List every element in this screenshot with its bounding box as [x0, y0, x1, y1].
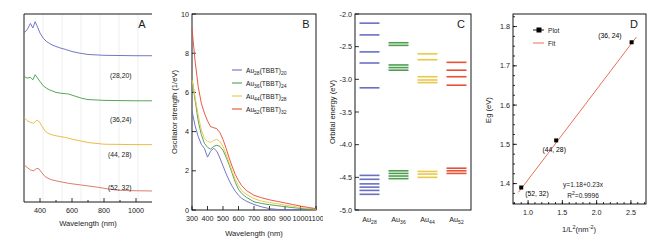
panel-a-gridlines — [43, 14, 138, 202]
panel-d-frame — [513, 14, 646, 204]
x-tick-label: 700 — [248, 214, 260, 223]
y-tick-label: -2.5 — [340, 42, 352, 51]
panel-c-category-label: Au52 — [449, 215, 464, 225]
panel-d-data-point — [519, 186, 523, 190]
y-tick-label: -2.0 — [340, 10, 352, 19]
panel-d-points: (36, 24)(44, 28)(52, 32) — [519, 32, 633, 197]
panel-d-data-point — [554, 138, 558, 142]
panel-d-point-label: (52, 32) — [525, 190, 548, 198]
panel-c-svg: -2.0-2.5-3.0-3.5-4.0-4.5-5.0 Orbital ene… — [323, 0, 478, 246]
x-tick-label: 1.0 — [523, 208, 533, 217]
panel-d-data-point — [630, 40, 634, 44]
panel-b-yticks: 0246810 — [181, 10, 196, 215]
y-tick-label: 2 — [185, 166, 189, 175]
x-tick-label: 600 — [66, 206, 78, 215]
panel-a-svg: 400 600 800 1000 Wavelength (nm) (28,20)… — [0, 0, 168, 246]
panel-d-ylabel: Eg (eV) — [484, 97, 493, 123]
panel-c-ylabel: Orbital energy (eV) — [328, 79, 337, 144]
panel-c-yticks: -2.0-2.5-3.0-3.5-4.0-4.5-5.0 — [340, 10, 359, 215]
panel-d-xticks: 1.01.52.02.5 — [514, 200, 644, 217]
panel-b-letter: B — [302, 18, 309, 30]
four-panel-figure: 400 600 800 1000 Wavelength (nm) (28,20)… — [0, 0, 659, 246]
x-tick-label: 900 — [279, 214, 291, 223]
panel-c-category-label: Au36 — [391, 215, 406, 225]
y-tick-label: 1.5 — [500, 140, 510, 149]
panel-a-curve-label-3: (44, 28) — [108, 151, 131, 159]
x-tick-label: 1000 — [128, 206, 144, 215]
legend-label-fit: Fit — [548, 40, 555, 47]
legend-label: Au28(TBBT)20 — [246, 67, 287, 76]
panel-a-curve-label-1: (28,20) — [110, 72, 132, 80]
x-tick-label: 1100 — [308, 214, 323, 223]
panel-b: 0246810 30040050060070080090010001100 Wa… — [168, 0, 323, 246]
y-tick-label: -3.0 — [340, 75, 352, 84]
panel-b-xlabel: Wavelength (nm) — [225, 229, 283, 238]
panel-c-frame — [355, 14, 471, 210]
legend-label: Au36(TBBT)24 — [246, 80, 287, 89]
panel-a-xticks: 400 600 800 1000 — [34, 198, 144, 215]
panel-a-xlabel: Wavelength (nm) — [59, 219, 117, 228]
panel-d-letter: D — [630, 18, 638, 30]
panel-d: 1.41.51.61.71.8 1.01.52.02.5 1/L2(nm-2) … — [478, 0, 659, 246]
y-tick-label: 8 — [185, 49, 189, 58]
panel-c-categories: Au28Au36Au44Au52 — [362, 215, 464, 225]
panel-c-category-label: Au28 — [362, 215, 377, 225]
panel-a: 400 600 800 1000 Wavelength (nm) (28,20)… — [0, 0, 168, 246]
panel-a-curve-label-2: (36,24) — [110, 116, 132, 124]
y-tick-label: 6 — [185, 88, 189, 97]
panel-d-point-label: (36, 24) — [598, 32, 621, 40]
y-tick-label: 10 — [181, 10, 189, 19]
panel-d-r-squared: R2=0.9996 — [567, 190, 599, 199]
y-tick-label: 1.7 — [500, 61, 510, 70]
panel-d-svg: 1.41.51.61.71.8 1.01.52.02.5 1/L2(nm-2) … — [478, 0, 659, 246]
panel-d-xlabel: 1/L2(nm-2) — [562, 224, 596, 234]
x-tick-label: 1000 — [293, 214, 309, 223]
panel-d-point-label: (44, 28) — [542, 146, 565, 154]
panel-b-curve — [192, 29, 316, 209]
x-tick-label: 2.0 — [592, 208, 602, 217]
panel-d-yticks: 1.41.51.61.71.8 — [500, 17, 517, 203]
y-tick-label: -4.5 — [340, 173, 352, 182]
x-tick-label: 400 — [34, 206, 46, 215]
x-tick-label: 500 — [217, 214, 229, 223]
panel-d-equation: y=1.18+0.23x — [563, 181, 604, 189]
panel-b-curves — [192, 29, 316, 210]
panel-c-category-label: Au44 — [420, 215, 435, 225]
x-tick-label: 1.5 — [557, 208, 567, 217]
x-tick-label: 800 — [264, 214, 276, 223]
panel-a-curve-label-4: (52, 32) — [108, 184, 131, 192]
panel-b-ylabel: Oscillator strength (1/eV) — [170, 70, 179, 154]
panel-b-legend: Au28(TBBT)20Au36(TBBT)24Au44(TBBT)28Au52… — [232, 67, 287, 115]
panel-d-fitline — [518, 37, 636, 192]
panel-c: -2.0-2.5-3.0-3.5-4.0-4.5-5.0 Orbital ene… — [323, 0, 478, 246]
y-tick-label: 1.6 — [500, 101, 510, 110]
y-tick-label: 4 — [185, 127, 189, 136]
panel-d-legend: PlotFit — [533, 27, 560, 47]
panel-d-fit-line — [518, 37, 636, 192]
x-tick-label: 400 — [202, 214, 214, 223]
y-tick-label: -4.0 — [340, 140, 352, 149]
panel-c-letter: C — [457, 18, 465, 30]
legend-marker-plot — [537, 28, 542, 33]
y-tick-label: -5.0 — [340, 206, 352, 215]
legend-label-plot: Plot — [548, 27, 560, 34]
panel-b-svg: 0246810 30040050060070080090010001100 Wa… — [168, 0, 323, 246]
x-tick-label: 300 — [186, 214, 198, 223]
x-tick-label: 2.5 — [626, 208, 636, 217]
x-tick-label: 600 — [233, 214, 245, 223]
y-tick-label: 1.8 — [500, 22, 510, 31]
legend-label: Au44(TBBT)28 — [246, 93, 287, 102]
y-tick-label: -3.5 — [340, 108, 352, 117]
panel-a-letter: A — [138, 18, 146, 30]
y-tick-label: 1.4 — [500, 179, 510, 188]
legend-label: Au52(TBBT)32 — [246, 106, 287, 115]
panel-c-levels — [360, 23, 467, 194]
x-tick-label: 800 — [98, 206, 110, 215]
